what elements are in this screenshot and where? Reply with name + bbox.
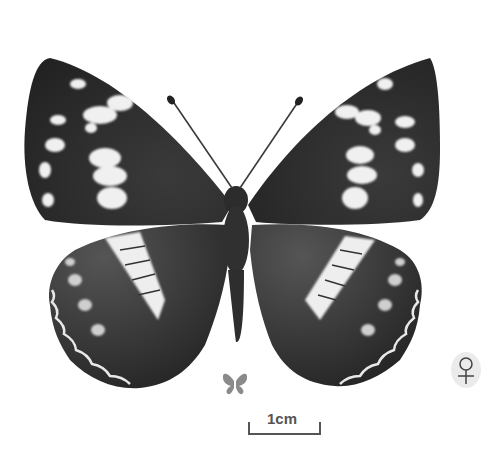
butterfly-illustration	[0, 0, 486, 460]
scale-bar-label: 1cm	[262, 410, 302, 427]
butterfly-silhouette-icon	[223, 374, 247, 394]
left-hindwing	[49, 224, 230, 388]
female-symbol-icon	[448, 350, 484, 390]
right-hindwing	[250, 224, 422, 386]
right-forewing	[248, 58, 440, 225]
